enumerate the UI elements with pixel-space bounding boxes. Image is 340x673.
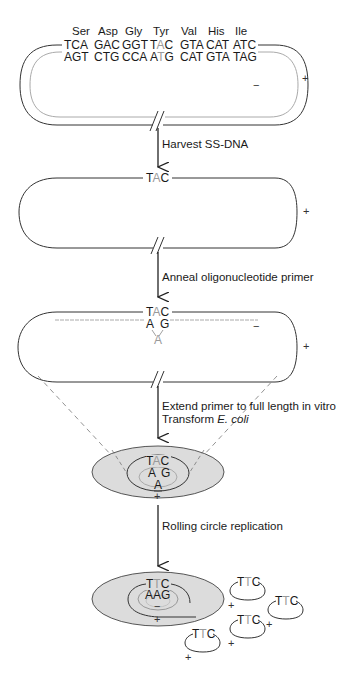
step-transform-label: Transform E. coli [162, 413, 249, 425]
plus-strand-label: + [303, 340, 309, 352]
progeny-sign: + [228, 637, 234, 649]
progeny-sign: + [266, 618, 272, 630]
progeny-codon: TTC [275, 594, 299, 608]
stage4-ecoli-cell: TAC A G A + [92, 446, 224, 502]
minus-strand-label: − [154, 600, 160, 612]
amino-acid: Asp [98, 25, 118, 37]
primer-base-right: G [161, 466, 170, 480]
codon: CTG [94, 50, 119, 64]
plus-strand-label: + [302, 72, 308, 84]
amino-acid: Tyr [153, 25, 169, 37]
step-rolling-circle-label: Rolling circle replication [162, 520, 283, 532]
progeny-codon: TTC [237, 575, 261, 589]
amino-acid: Gly [125, 25, 143, 37]
amino-acid: His [208, 25, 225, 37]
stage5-replication: TTC AAG − + TTC + TTC + TTC + TTC + [92, 572, 303, 663]
mismatch-base: A [154, 333, 162, 347]
progeny-sign: + [228, 599, 234, 611]
break-mark [151, 371, 158, 388]
plus-strand-label: + [154, 490, 160, 502]
progeny-sign: + [185, 651, 191, 663]
step-extend-label: Extend primer to full length in vitro [162, 400, 336, 412]
plus-strand-label: + [154, 613, 160, 625]
progeny-phage: TTC + [228, 613, 265, 649]
stage2-ssdna: TAC + [19, 171, 309, 254]
stage1-dsdna-plasmid: Ser Asp Gly Tyr Val His Ile TCA GAC GGT … [20, 25, 308, 131]
codon: CCA [122, 50, 147, 64]
codon: GTA [206, 50, 230, 64]
break-mark [157, 237, 164, 254]
step-anneal-label: Anneal oligonucleotide primer [162, 271, 314, 283]
codon: TAG [233, 50, 257, 64]
break-mark [151, 237, 158, 254]
minus-strand-sequence: AGT CTG CCA ATG CAT GTA TAG [64, 50, 257, 64]
break-mark [157, 371, 164, 388]
mutagenesis-diagram: Ser Asp Gly Tyr Val His Ile TCA GAC GGT … [0, 0, 340, 673]
target-codon: TAC [146, 171, 169, 185]
step-harvest-label: Harvest SS-DNA [162, 138, 249, 150]
minus-strand-label: − [253, 79, 259, 91]
progeny-phage: TTC + [266, 594, 303, 630]
amino-acid: Ser [72, 25, 90, 37]
progeny-phage: TTC + [185, 627, 220, 663]
plus-strand-label: + [303, 205, 309, 217]
codon-target-complement: ATG [150, 50, 174, 64]
codon: CAT [180, 50, 204, 64]
amino-acid: Val [181, 25, 197, 37]
stage3-primer-annealed: TAC A G A − + [18, 305, 309, 388]
progeny-phage: TTC + [228, 575, 265, 611]
progeny-codon: TTC [237, 613, 261, 627]
minus-strand-label: − [253, 320, 259, 332]
codon: AGT [64, 50, 89, 64]
amino-acid-row: Ser Asp Gly Tyr Val His Ile [72, 25, 247, 37]
primer-base-left: A [146, 317, 154, 331]
primer-base-right: G [160, 317, 169, 331]
progeny-codon: TTC [192, 627, 216, 641]
amino-acid: Ile [235, 25, 247, 37]
